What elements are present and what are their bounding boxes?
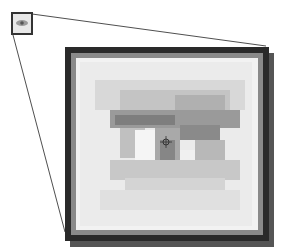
connector-line-left [13, 35, 65, 232]
magnified-eye-view [65, 47, 269, 241]
eye-icon-thumbnail[interactable] [11, 12, 33, 35]
connector-line-top [32, 14, 266, 46]
magnifier-diagram [0, 0, 282, 252]
